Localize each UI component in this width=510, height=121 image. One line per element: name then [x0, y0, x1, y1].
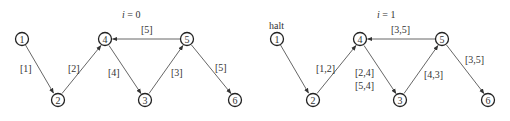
svg-text:2: 2 [56, 95, 61, 106]
svg-text:6: 6 [233, 95, 238, 106]
svg-text:5: 5 [440, 34, 445, 45]
halt-label: halt [269, 20, 284, 31]
svg-text:5: 5 [185, 34, 190, 45]
edge-label-4-3: [4] [108, 67, 120, 78]
svg-text:1: 1 [275, 34, 280, 45]
node-5: 5 [436, 33, 449, 46]
node-6: 6 [229, 94, 242, 107]
svg-text:3: 3 [143, 95, 148, 106]
node-3: 3 [139, 94, 152, 107]
node-6: 6 [482, 94, 495, 107]
node-1: 1 [16, 33, 29, 46]
graph-iteration-0: i = 0 [1] [2] [4] [3] [5] [5] 1 2 3 4 5 … [16, 9, 242, 107]
node-5: 5 [181, 33, 194, 46]
edge-1-2 [281, 45, 309, 93]
edge-label-1-2: [1] [20, 63, 32, 74]
graph-title: i = 1 [377, 9, 395, 20]
graph-title: i = 0 [122, 9, 140, 20]
svg-text:3: 3 [398, 95, 403, 106]
svg-text:6: 6 [486, 95, 491, 106]
svg-text:2: 2 [311, 95, 316, 106]
edge-label-3-5: [3] [171, 67, 183, 78]
node-3: 3 [394, 94, 407, 107]
edge-label-5-4: [3,5] [391, 24, 410, 35]
svg-text:1: 1 [20, 34, 25, 45]
edge-label-5-6: [5] [215, 62, 227, 73]
edge-label-5-6: [3,5] [465, 54, 484, 65]
node-2: 2 [52, 94, 65, 107]
svg-text:4: 4 [358, 34, 363, 45]
node-2: 2 [307, 94, 320, 107]
edge-label-2-4: [1,2] [316, 63, 335, 74]
edge-5-6 [447, 45, 485, 94]
edge-label-2-4: [2] [68, 63, 80, 74]
svg-text:4: 4 [103, 34, 108, 45]
edge-label-3-5: [4,3] [424, 69, 443, 80]
node-1: 1 [271, 33, 284, 46]
graph-iteration-1: i = 1 halt [1,2] [2,4] [5,4] [4,3] [3,5]… [269, 9, 495, 107]
edge-label-4-3-b: [5,4] [355, 80, 374, 91]
edge-label-5-4: [5] [141, 24, 153, 35]
node-4: 4 [99, 33, 112, 46]
diagram-canvas: i = 0 [1] [2] [4] [3] [5] [5] 1 2 3 4 5 … [0, 0, 510, 121]
edge-label-4-3-a: [2,4] [355, 67, 374, 78]
node-4: 4 [354, 33, 367, 46]
